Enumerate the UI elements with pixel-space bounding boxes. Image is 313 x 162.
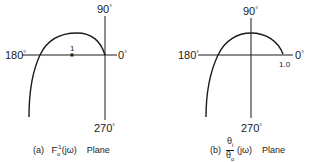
diagram-b-label-0: 0°: [295, 50, 304, 61]
diagram-b-label-270: 270°: [241, 123, 262, 134]
diagram-a-label-270: 270°: [94, 123, 115, 134]
diagram-a-caption: (a) Fo-1(jω) Plane: [33, 142, 110, 159]
diagram-b-caption-fraction: θi θo: [226, 137, 234, 162]
diagram-a-marker-label: 1: [70, 43, 74, 54]
diagram-a-label-180: 180°: [5, 50, 26, 61]
diagram-a-nyquist-curve: [29, 33, 105, 117]
diagram-a-label-90: 90°: [97, 4, 112, 15]
diagram-b-intercept-label: 1.0: [279, 59, 290, 70]
diagram-b-label-180: 180°: [178, 50, 199, 61]
diagram-b-label-90: 90°: [243, 6, 258, 17]
diagram-b-nyquist-curve: [206, 33, 283, 117]
diagram-b-caption: (b) θi θo (jω) Plane: [210, 137, 285, 162]
diagram-a-axes: [22, 16, 117, 120]
diagram-a-label-0: 0°: [118, 50, 127, 61]
